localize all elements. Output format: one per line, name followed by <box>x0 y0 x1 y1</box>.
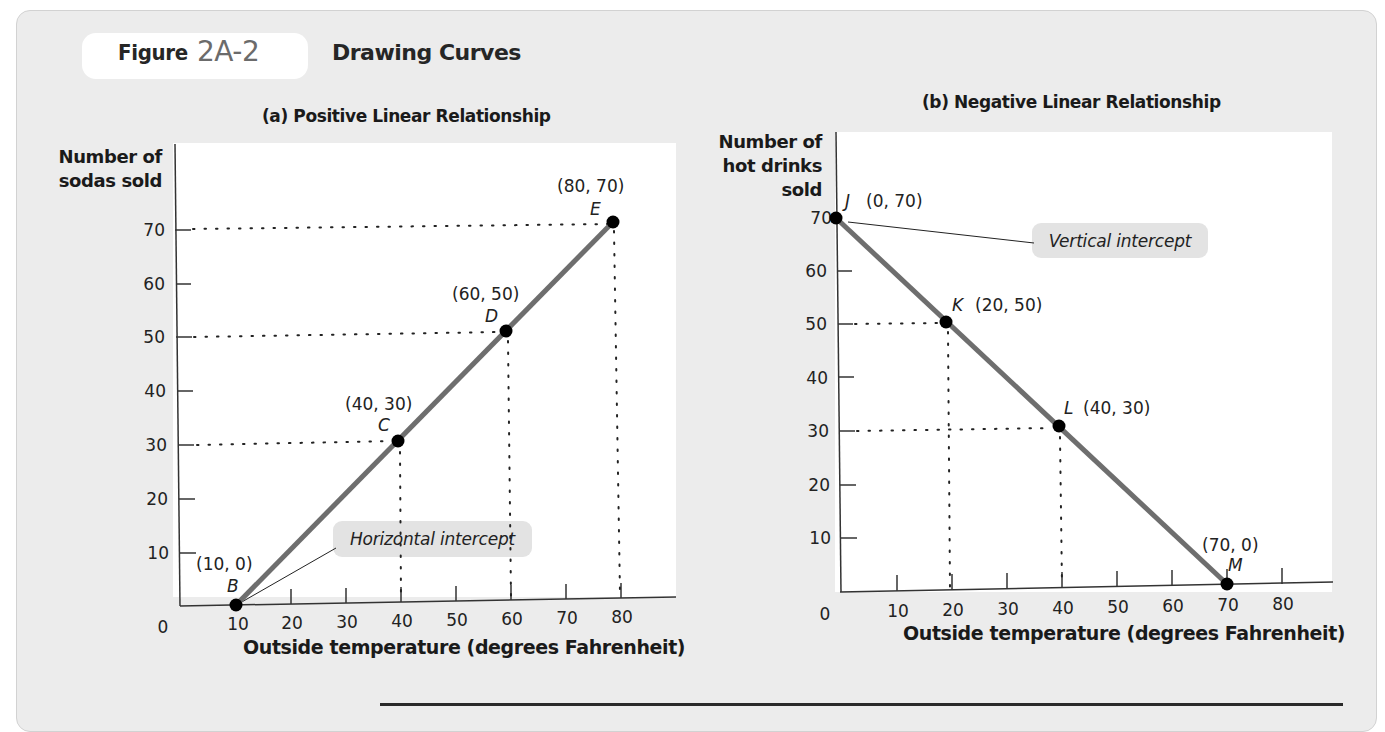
svg-text:60: 60 <box>805 261 827 281</box>
svg-text:M: M <box>1228 555 1243 575</box>
panel-b-curve <box>836 218 1227 584</box>
svg-text:(40, 30): (40, 30) <box>1083 398 1150 418</box>
point-k <box>940 316 953 329</box>
point-l <box>1053 420 1066 433</box>
svg-text:L: L <box>1064 398 1073 418</box>
panel-b-x-tick-labels: 0 10 20 30 40 50 60 70 80 <box>820 594 1294 624</box>
panel-b-y-tick-labels: 70 60 50 40 30 20 10 <box>805 208 832 548</box>
svg-text:70: 70 <box>1217 595 1239 615</box>
panel-b-point-labels: J (0, 70) K (20, 50) L (40, 30) (70, 0) … <box>842 191 1259 575</box>
point-j <box>830 212 843 225</box>
svg-text:0: 0 <box>820 604 831 624</box>
svg-text:60: 60 <box>1162 596 1184 616</box>
svg-text:(0, 70): (0, 70) <box>866 191 923 211</box>
bottom-rule <box>380 703 1343 706</box>
svg-text:10: 10 <box>809 528 831 548</box>
svg-text:50: 50 <box>805 314 827 334</box>
panel-b-y-axis <box>836 132 841 592</box>
svg-text:80: 80 <box>1272 594 1294 614</box>
svg-text:70: 70 <box>810 208 832 228</box>
vertical-intercept-leader <box>848 222 1034 243</box>
svg-text:K: K <box>952 295 965 315</box>
svg-text:20: 20 <box>808 475 830 495</box>
svg-text:(20, 50): (20, 50) <box>975 295 1042 315</box>
svg-text:10: 10 <box>887 601 909 621</box>
svg-text:30: 30 <box>997 599 1019 619</box>
panel-b-guides <box>855 323 1062 588</box>
svg-text:40: 40 <box>1052 598 1074 618</box>
svg-text:20: 20 <box>942 600 964 620</box>
svg-text:(70, 0): (70, 0) <box>1202 535 1259 555</box>
svg-text:50: 50 <box>1107 597 1129 617</box>
svg-text:30: 30 <box>807 421 829 441</box>
point-m <box>1221 578 1234 591</box>
panel-b-x-axis <box>840 582 1333 592</box>
svg-text:40: 40 <box>806 368 828 388</box>
svg-text:J: J <box>842 191 850 211</box>
